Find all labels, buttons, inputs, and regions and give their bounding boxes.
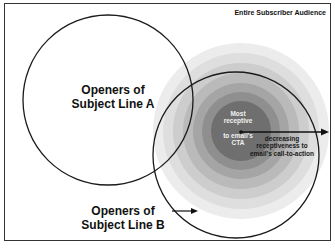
center-line1: Most: [208, 110, 268, 117]
label-b-line2: Subject Line B: [78, 219, 168, 233]
decreasing-receptiveness-label: decreasing receptiveness to email's call…: [240, 135, 324, 157]
decr-line1: decreasing: [240, 135, 324, 142]
center-line2: receptive: [208, 117, 268, 124]
subject-line-a-label: Openers of Subject Line A: [68, 84, 158, 112]
subject-line-b-label: Openers of Subject Line B: [78, 205, 168, 233]
entire-audience-label: Entire Subscriber Audience: [234, 9, 326, 17]
label-b-line1: Openers of: [78, 205, 168, 219]
decr-line3: email's call-to-action: [240, 150, 324, 157]
label-a-line1: Openers of: [68, 84, 158, 98]
label-a-line2: Subject Line A: [68, 98, 158, 112]
decr-line2: receptiveness to: [240, 142, 324, 149]
